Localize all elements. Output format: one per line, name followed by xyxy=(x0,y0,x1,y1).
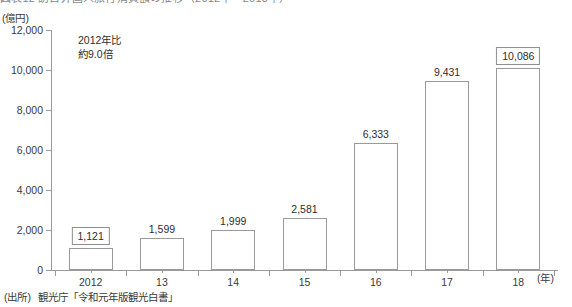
y-axis-tick-label: 0 xyxy=(37,265,43,276)
x-axis-tick-label: 17 xyxy=(441,276,453,288)
x-axis-tick-label: 2012 xyxy=(79,276,102,288)
y-axis-tick-label: 6,000 xyxy=(17,145,43,156)
x-axis-tick-major xyxy=(198,270,199,276)
x-axis-tick-major xyxy=(554,270,555,276)
y-axis-tick-label: 8,000 xyxy=(17,105,43,116)
y-axis-tick xyxy=(46,230,51,231)
bar xyxy=(354,143,398,270)
y-axis-tick xyxy=(46,30,51,31)
bar xyxy=(69,248,113,270)
source-citation: 観光庁「令和元年版観光白書」 xyxy=(38,291,178,303)
x-axis-tick-label: 14 xyxy=(227,276,239,288)
x-axis-tick-major xyxy=(126,270,127,276)
x-axis-unit-label: (年) xyxy=(537,272,554,284)
bar-value-label: 1,121 xyxy=(72,227,110,245)
annotation-line-2: 約9.0倍 xyxy=(78,47,121,61)
x-axis-tick-major xyxy=(269,270,270,276)
x-axis-tick-major xyxy=(55,270,56,276)
bar xyxy=(425,81,469,270)
y-axis-line xyxy=(51,30,52,270)
x-axis-tick-label: 15 xyxy=(299,276,311,288)
y-axis-tick-label: 12,000 xyxy=(11,25,43,36)
annotation-line-1: 2012年比 xyxy=(78,33,121,47)
y-axis-tick xyxy=(46,110,51,111)
x-axis-tick-major xyxy=(411,270,412,276)
y-axis-tick xyxy=(46,150,51,151)
bar-value-label: 6,333 xyxy=(363,128,389,140)
y-axis-tick-label: 10,000 xyxy=(11,65,43,76)
x-axis-tick-minor xyxy=(233,270,234,273)
x-axis-tick-minor xyxy=(91,270,92,273)
x-axis-tick-minor xyxy=(162,270,163,273)
x-axis-tick-minor xyxy=(518,270,519,273)
bar-value-label: 9,431 xyxy=(434,66,460,78)
y-axis-tick-label: 2,000 xyxy=(17,225,43,236)
y-axis-unit-label: (億円) xyxy=(2,12,29,24)
bar xyxy=(496,68,540,270)
x-axis-tick-minor xyxy=(305,270,306,273)
bar-value-label: 10,086 xyxy=(496,47,540,65)
y-axis-tick xyxy=(46,70,51,71)
x-axis-tick-label: 16 xyxy=(370,276,382,288)
x-axis-tick-major xyxy=(340,270,341,276)
bar-value-label: 2,581 xyxy=(291,203,317,215)
bar xyxy=(283,218,327,270)
bar xyxy=(140,238,184,270)
bar-value-label: 1,599 xyxy=(149,223,175,235)
bar xyxy=(211,230,255,270)
x-axis-tick-minor xyxy=(447,270,448,273)
source-note: (出所)観光庁「令和元年版観光白書」 xyxy=(4,291,178,304)
y-axis-tick-label: 4,000 xyxy=(17,185,43,196)
x-axis-tick-label: 13 xyxy=(156,276,168,288)
chart-plot-area: 02,0004,0006,0008,00010,00012,000 1,1211… xyxy=(51,30,558,270)
y-axis-tick xyxy=(46,190,51,191)
source-prefix: (出所) xyxy=(4,291,31,303)
x-axis-tick-label: 18 xyxy=(513,276,525,288)
x-axis-tick-minor xyxy=(376,270,377,273)
figure-title: 図表12 訪日外国人旅行消費額の推移（2012年～2018年） xyxy=(0,0,290,5)
chart-annotation: 2012年比 約9.0倍 xyxy=(78,33,121,61)
y-axis-tick xyxy=(46,270,51,271)
x-axis-tick-major xyxy=(483,270,484,276)
bar-value-label: 1,999 xyxy=(220,215,246,227)
